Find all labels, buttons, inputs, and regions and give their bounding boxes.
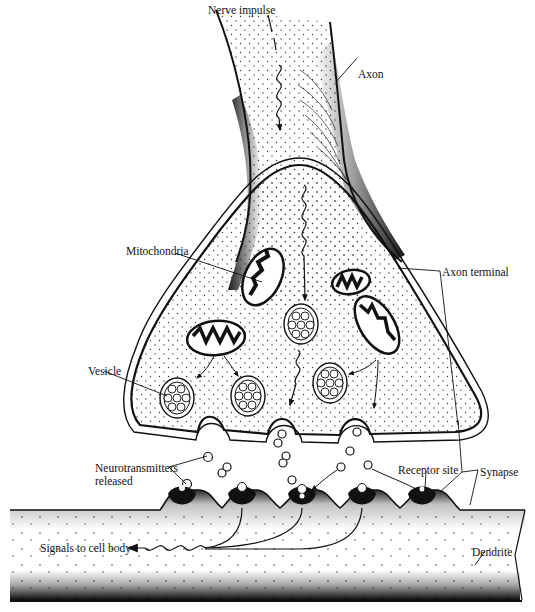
diagram-canvas xyxy=(0,0,535,612)
label-mitochondria: Mitochondria xyxy=(126,245,189,258)
label-neurotransmitters-line1: Neurotransmitters xyxy=(95,462,178,474)
label-neurotransmitters-released: Neurotransmitters released xyxy=(95,462,178,488)
label-receptor-site: Receptor site xyxy=(398,464,458,477)
label-vesicle: Vesicle xyxy=(88,365,121,378)
vesicle xyxy=(284,304,318,344)
vesicle xyxy=(231,376,265,416)
label-synapse: Synapse xyxy=(480,466,518,479)
label-neurotransmitters-line2: released xyxy=(95,475,133,487)
label-dendrite: Dendrite xyxy=(472,546,512,559)
synapse-diagram: Nerve impulse Axon Mitochondria Axon ter… xyxy=(0,0,535,612)
label-signals-to-cell-body: Signals to cell body xyxy=(40,542,131,555)
label-axon-terminal: Axon terminal xyxy=(442,266,509,279)
neurotransmitter-molecules xyxy=(183,428,373,489)
vesicle xyxy=(313,363,347,403)
label-nerve-impulse: Nerve impulse xyxy=(208,4,275,17)
label-axon: Axon xyxy=(358,68,384,81)
